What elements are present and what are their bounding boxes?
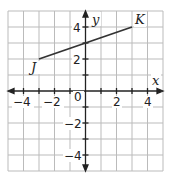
x-tick-label: −4 [13,95,31,109]
y-tick-label: 4 [73,21,81,35]
y-tick-label: −2 [64,117,82,131]
y-axis-label: y [91,12,100,27]
point-j-label: J [28,60,37,75]
coordinate-plane: −4 −2 2 4 0 4 2 −2 −4 y x J K [0,0,172,179]
x-tick-label: −2 [43,95,61,109]
y-tick-label: 2 [73,53,81,67]
x-tick-label: 4 [144,95,152,109]
y-tick-label: −4 [64,149,82,163]
arrow-left-icon [8,89,14,94]
origin-label: 0 [74,90,82,104]
arrow-down-icon [83,165,88,171]
x-tick-label: 2 [113,95,121,109]
arrow-up-icon [83,11,88,17]
point-k-label: K [134,12,146,27]
arrow-right-icon [157,89,163,94]
x-axis-label: x [152,73,160,88]
